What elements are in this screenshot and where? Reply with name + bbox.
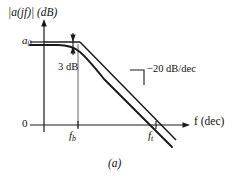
three-db-arrow — [70, 33, 75, 55]
ft-tick-label: ft — [148, 130, 153, 143]
y-axis-title-text: |a(jf)| (dB) — [8, 6, 57, 18]
y-axis-title: |a(jf)| (dB) — [8, 7, 57, 19]
y-axis — [41, 19, 47, 132]
figure-caption: (a) — [108, 158, 121, 170]
fb-tick-label: fb — [69, 130, 76, 143]
x-axis-title-text: f (dec) — [194, 115, 224, 127]
x-axis — [30, 122, 190, 127]
slope-annotation: −20 dB/dec — [147, 64, 196, 75]
a0-tick-label: a0 — [22, 35, 31, 48]
slope-triangle-marker — [130, 70, 144, 85]
origin-tick-label: 0 — [22, 118, 28, 129]
plot-canvas — [0, 0, 236, 178]
ft-subscript: t — [151, 134, 153, 143]
bode-magnitude-figure: |a(jf)| (dB) a0 0 fb ft f (dec) −20 dB/d… — [0, 0, 236, 178]
fb-subscript: b — [72, 134, 76, 143]
x-axis-title: f (dec) — [194, 116, 224, 128]
bandwidth-annotation: 3 dB — [58, 62, 78, 73]
origin-text: 0 — [22, 117, 28, 129]
a0-subscript: 0 — [28, 39, 32, 48]
